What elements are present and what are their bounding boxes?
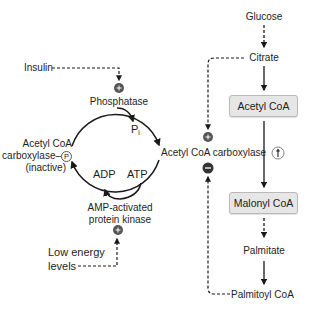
acetyl-coa-box: Acetyl CoA <box>229 95 298 117</box>
ampk-line2: protein kinase <box>87 214 152 226</box>
inactive-acc-line1: Acetyl CoA <box>0 138 72 150</box>
inactive-acc-line3: (inactive) <box>0 162 72 174</box>
inactive-acc-line2: carboxylase–P <box>0 150 72 162</box>
low-energy-line1: Low energy <box>48 245 105 259</box>
ampk-label: AMP-activated protein kinase <box>87 202 152 226</box>
palmitate-label: Palmitate <box>243 245 285 256</box>
phosphorylation-cycle <box>72 108 159 199</box>
glucose-label: Glucose <box>246 11 283 22</box>
insulin-label: Insulin <box>24 62 53 73</box>
adp-label: ADP <box>93 169 116 180</box>
palmitoyl-coa-label: Palmitoyl CoA <box>231 289 294 300</box>
insulin-activation-line <box>52 68 119 80</box>
citrate-activation-line <box>208 58 244 129</box>
palmitoyl-coa-inhibition-line <box>208 177 230 294</box>
citrate-label: Citrate <box>249 52 278 63</box>
citrate-plus-icon <box>203 132 213 142</box>
low-energy-label: Low energy levels <box>48 245 105 273</box>
atp-label: ATP <box>127 169 148 180</box>
inorganic-phosphate-label: Pi <box>131 124 140 138</box>
phosphatase-label: Phosphatase <box>90 96 148 107</box>
palmitoyl-minus-icon <box>203 163 214 174</box>
ampk-line1: AMP-activated <box>87 202 152 214</box>
malonyl-coa-box: Malonyl CoA <box>229 192 298 214</box>
inactive-acc-label: Acetyl CoA carboxylase–P (inactive) <box>0 138 72 174</box>
low-energy-plus-icon <box>113 225 123 235</box>
phosphate-group-icon: P <box>61 151 72 162</box>
active-acc-label: Acetyl CoA carboxylase <box>161 147 266 158</box>
insulin-plus-icon <box>114 83 124 93</box>
low-energy-line2: levels <box>48 259 105 273</box>
up-regulation-icon <box>272 147 284 159</box>
inactive-acc-text: carboxylase– <box>2 150 61 161</box>
pi-subscript: i <box>138 129 140 136</box>
